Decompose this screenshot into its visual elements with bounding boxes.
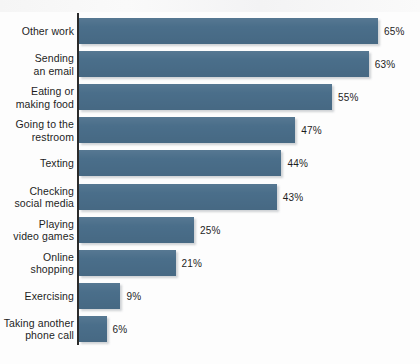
bar	[79, 84, 332, 110]
bar	[79, 217, 194, 243]
value-label: 44%	[287, 158, 308, 169]
bar-rows: Other work65%Sending an email63%Eating o…	[0, 13, 420, 345]
bar-row: Exercising9%	[0, 283, 420, 309]
bar-row: Going to the restroom47%	[0, 117, 420, 143]
bar-row: Texting44%	[0, 150, 420, 176]
value-label: 55%	[338, 92, 359, 103]
value-label: 21%	[182, 257, 203, 268]
bar	[79, 18, 378, 44]
category-label: Other work	[0, 25, 74, 38]
category-label: Going to the restroom	[0, 118, 74, 143]
scan-artifact-band	[0, 0, 420, 12]
bar-row: Playing video games25%	[0, 217, 420, 243]
value-label: 6%	[113, 323, 128, 334]
bar-chart: Other work65%Sending an email63%Eating o…	[0, 0, 420, 364]
bar	[79, 117, 295, 143]
bar	[79, 150, 281, 176]
value-label: 47%	[301, 125, 322, 136]
value-label: 65%	[384, 26, 405, 37]
bar-row: Checking social media43%	[0, 184, 420, 210]
bar	[79, 316, 107, 342]
category-label: Eating or making food	[0, 85, 74, 110]
bar-row: Taking another phone call6%	[0, 316, 420, 342]
category-label: Playing video games	[0, 217, 74, 242]
value-label: 25%	[200, 224, 221, 235]
category-label: Texting	[0, 157, 74, 170]
value-label: 63%	[375, 59, 396, 70]
bar-row: Eating or making food55%	[0, 84, 420, 110]
value-label: 9%	[126, 290, 141, 301]
bar	[79, 283, 120, 309]
plot-area: Other work65%Sending an email63%Eating o…	[0, 13, 420, 345]
bar	[79, 184, 277, 210]
value-label: 43%	[283, 191, 304, 202]
category-label: Online shopping	[0, 250, 74, 275]
bar-row: Online shopping21%	[0, 250, 420, 276]
category-label: Taking another phone call	[0, 316, 74, 341]
bar	[79, 250, 176, 276]
bar-row: Other work65%	[0, 18, 420, 44]
category-label: Checking social media	[0, 184, 74, 209]
category-label: Sending an email	[0, 52, 74, 77]
category-label: Exercising	[0, 290, 74, 303]
bar-row: Sending an email63%	[0, 51, 420, 77]
bar	[79, 51, 369, 77]
